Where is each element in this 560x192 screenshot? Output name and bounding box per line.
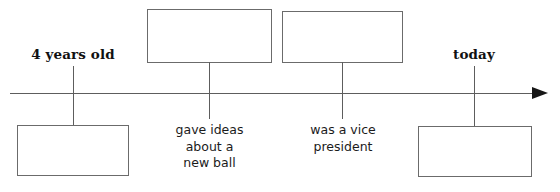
timeline-diagram: 4 years old gave ideas about a new ball … — [0, 0, 560, 192]
event-label-gave-ideas: gave ideas about a new ball — [152, 122, 267, 172]
answer-blank-event-1[interactable] — [17, 125, 129, 176]
answer-blank-event-3[interactable] — [282, 11, 403, 63]
answer-blank-event-4[interactable] — [418, 126, 532, 177]
event-label-today: today — [429, 46, 519, 62]
tick-stem-event-1-blank — [73, 93, 74, 125]
tick-mark-event-2 — [209, 93, 210, 119]
timeline-arrowhead-icon — [532, 87, 548, 99]
tick-stem-event-3-blank — [342, 62, 343, 95]
event-label-was-a-vice-president: was a vice president — [287, 122, 399, 155]
tick-stem-event-2-blank — [209, 62, 210, 95]
tick-mark-event-1 — [73, 66, 74, 95]
tick-mark-event-4 — [474, 66, 475, 95]
event-label-4-years-old: 4 years old — [13, 46, 133, 62]
tick-stem-event-4-blank — [474, 93, 475, 126]
answer-blank-event-2[interactable] — [147, 9, 272, 63]
tick-mark-event-3 — [342, 93, 343, 119]
timeline-axis-line — [10, 93, 537, 94]
